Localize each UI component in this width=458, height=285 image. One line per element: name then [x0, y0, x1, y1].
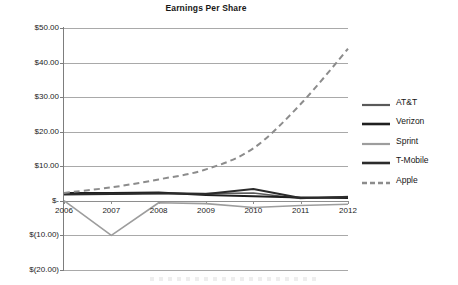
earnings-per-share-chart: Earnings Per Share $50.00$40.00$30.00$20… — [0, 0, 458, 285]
series-line-apple — [64, 49, 348, 193]
y-axis-label: $30.00 — [35, 93, 59, 101]
x-axis-label: 2006 — [48, 207, 80, 215]
x-axis-label: 2011 — [285, 207, 317, 215]
x-axis-label: 2010 — [237, 207, 269, 215]
x-axis-label: 2008 — [143, 207, 175, 215]
y-axis-label: $- — [52, 197, 59, 205]
x-axis-label: 2012 — [332, 207, 364, 215]
y-tick--20 — [60, 270, 64, 271]
chart-title: Earnings Per Share — [64, 3, 348, 13]
y-axis-label: $(20.00) — [29, 266, 59, 274]
legend-item-apple[interactable]: Apple — [362, 174, 458, 193]
legend-label: AT&T — [396, 97, 417, 107]
line-swatch-solid-icon — [362, 103, 390, 106]
legend-item-t-mobile[interactable]: T-Mobile — [362, 154, 458, 173]
line-swatch-dashed-icon — [362, 181, 390, 184]
x-axis-label: 2007 — [95, 207, 127, 215]
line-swatch-solid-icon — [362, 122, 390, 125]
y-axis-label: $10.00 — [35, 162, 59, 170]
y-axis-label: $(10.00) — [29, 231, 59, 239]
y-axis-label: $20.00 — [35, 128, 59, 136]
legend-label: Sprint — [396, 136, 418, 146]
line-swatch-solid-icon — [362, 161, 390, 164]
x-tick-2012 — [348, 201, 349, 204]
page-scan-artifact — [150, 277, 320, 281]
y-axis-label: $50.00 — [35, 24, 59, 32]
y-axis-label: $40.00 — [35, 59, 59, 67]
line-swatch-solid-icon — [362, 142, 390, 145]
series-lines — [64, 28, 348, 270]
legend-label: Apple — [396, 175, 418, 185]
legend-item-sprint[interactable]: Sprint — [362, 135, 458, 154]
gridline--20 — [64, 270, 348, 271]
chart-legend: AT&TVerizonSprintT-MobileApple — [362, 96, 458, 193]
x-axis-label: 2009 — [190, 207, 222, 215]
plot-area — [64, 28, 348, 270]
legend-label: Verizon — [396, 116, 424, 126]
legend-item-verizon[interactable]: Verizon — [362, 115, 458, 134]
legend-label: T-Mobile — [396, 155, 429, 165]
legend-item-at-t[interactable]: AT&T — [362, 96, 458, 115]
